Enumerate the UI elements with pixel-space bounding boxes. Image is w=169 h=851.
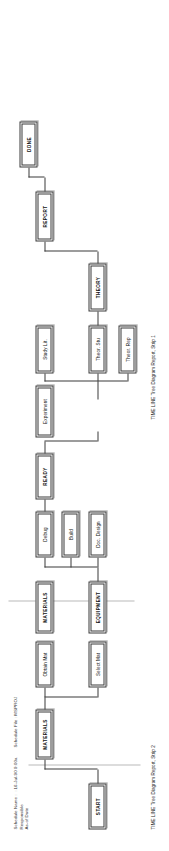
node-label: EQUIPMENT [95, 591, 100, 622]
node-label: Theor. Rep [125, 337, 130, 361]
diagram-canvas: Schedule Name Responsible As-of Date : :… [0, 0, 169, 851]
node-done[interactable]: DONE [19, 121, 37, 167]
node-label: Theor. Stu [95, 338, 100, 361]
connector-start-out [97, 769, 98, 783]
node-select-mat[interactable]: Select Mat [88, 641, 106, 687]
node-theory[interactable]: THEORY [88, 263, 106, 311]
node-label: THEORY [95, 276, 100, 298]
connector-from-study-lit [44, 373, 45, 381]
connector-theory-up [44, 250, 97, 251]
connector-to-select-mat [97, 687, 98, 697]
node-label: MATERIALS [42, 592, 47, 623]
strip-rule-mid [8, 600, 134, 601]
connector-report-up [28, 176, 44, 177]
connector-ready-out [44, 441, 45, 453]
header-labels: Schedule Name Responsible As-of Date [12, 796, 29, 829]
connector-equipment-out [97, 567, 98, 581]
node-label: READY [42, 467, 47, 485]
caption-strip-2: TIME LINE Tree Diagram Report, Strip 2 [150, 745, 155, 829]
node-label: START [95, 797, 100, 814]
node-doc-design[interactable]: Doc. Design [88, 511, 106, 557]
connector-into-ready [44, 499, 45, 511]
connector-theory-out [97, 251, 98, 263]
node-label: Experiment [42, 399, 47, 424]
connector-report-out [44, 177, 45, 191]
connector-to-done [28, 167, 29, 177]
node-equipment[interactable]: EQUIPMENT [88, 581, 106, 633]
node-theor-rep[interactable]: Theor. Rep [118, 325, 136, 373]
header-schedule-file: Schedule File : MSPROJ [12, 696, 18, 747]
connector-start-trunk [44, 768, 97, 769]
connector-from-theor-stu [97, 373, 98, 381]
node-materials-root[interactable]: MATERIALS [35, 709, 53, 759]
node-materials-mid[interactable]: MATERIALS [35, 581, 53, 633]
connector-to-experiment [97, 431, 98, 441]
header-asof-date-value: 16-Jul-90 9:00a [12, 757, 18, 789]
node-theor-stu[interactable]: Theor. Stu [88, 325, 106, 373]
caption-strip-1: TIME LINE Tree Diagram Report, Strip 1 [150, 335, 155, 419]
header-asof-date-label: As-of Date [23, 796, 29, 829]
node-label: DONE [26, 136, 31, 151]
connector-into-theory [97, 311, 98, 325]
connector-to-doc-design [97, 557, 98, 567]
connector-materials-split [44, 696, 97, 697]
connector-to-obtain-mat [44, 687, 45, 697]
node-report[interactable]: REPORT [35, 191, 53, 241]
node-ready[interactable]: READY [35, 453, 53, 499]
node-label: MATERIALS [42, 719, 47, 750]
node-obtain-mat[interactable]: Obtain Mat [35, 641, 53, 687]
node-label: Doc. Design [95, 521, 100, 548]
node-label: Build [68, 529, 73, 540]
connector-to-debug [44, 557, 45, 567]
node-label: Study Lit. [42, 339, 47, 360]
connector-theory-in [97, 381, 98, 399]
connector-from-theor-rep [127, 373, 128, 381]
node-label: REPORT [42, 205, 47, 227]
node-debug[interactable]: Debug [35, 511, 53, 557]
node-label: Debug [42, 527, 47, 541]
connector-materials-out [44, 697, 45, 709]
node-study-lit[interactable]: Study Lit. [35, 325, 53, 373]
connector-to-build [70, 557, 71, 567]
node-label: Select Mat [95, 652, 100, 675]
connector-to-report [44, 241, 45, 251]
header-responsible-label: Responsible [18, 796, 24, 829]
report-page: Schedule Name Responsible As-of Date : :… [0, 0, 169, 851]
header-schedule-name-label: Schedule Name [12, 796, 18, 829]
connector-trunk-to-materials [44, 759, 45, 769]
connector-ready-split [44, 440, 97, 441]
node-build[interactable]: Build [61, 511, 79, 557]
node-start[interactable]: START [88, 783, 106, 829]
node-experiment[interactable]: Experiment [35, 385, 53, 437]
node-label: Obtain Mat [42, 652, 47, 676]
connector-theory-collector [44, 380, 127, 381]
